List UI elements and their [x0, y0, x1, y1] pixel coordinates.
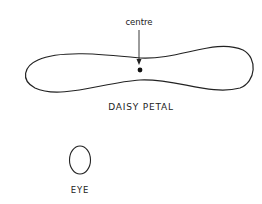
diagram-canvas: centre DAISY PETAL EYE [0, 0, 262, 204]
eye-outline [70, 146, 91, 174]
centre-label: centre [125, 17, 152, 27]
daisy-petal-label: DAISY PETAL [108, 102, 174, 112]
eye-label: EYE [71, 185, 89, 195]
centre-arrow-head [137, 59, 142, 65]
petal-centre-dot [138, 68, 143, 73]
